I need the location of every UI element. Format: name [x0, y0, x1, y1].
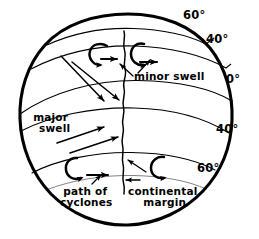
latitude-line-60n [47, 28, 206, 45]
continental-margin-label: continental margin [128, 186, 198, 208]
path-of-cyclones-label: path of cyclones [58, 186, 113, 208]
latitude-label-40s: 40° [216, 122, 238, 136]
ocean-swell-globe-figure: 60° 40° 0° 40° 60° minor swell major swe… [0, 0, 259, 239]
latitude-label-60n: 60° [183, 8, 205, 22]
swell-arrow-upper-b [72, 62, 119, 100]
major-swell-label-line2: swell [31, 123, 70, 134]
minor-swell-label: minor swell [134, 71, 205, 82]
continental-margin-line [122, 31, 126, 194]
path-of-cyclones-label-line2: cyclones [58, 197, 113, 208]
cyclone-path-pointer [92, 175, 101, 184]
latitude-label-0: 0° [226, 72, 240, 86]
cyclone-spirals-north [90, 44, 144, 66]
latitude-line-40n [31, 46, 226, 69]
major-swell-arrows-upper [61, 56, 119, 101]
swell-arrow-upper-a [61, 56, 104, 101]
margin-pointer-upper [128, 160, 146, 172]
major-swell-label: major swell [31, 112, 70, 134]
swell-arrow-lower-b [70, 137, 118, 153]
tick-leader-40n [226, 64, 231, 68]
cyclone-spiral-south-right [151, 157, 164, 178]
cyclone-spiral-south-left [66, 158, 81, 179]
latitude-label-60s: 60° [197, 161, 219, 175]
continental-margin-label-line2: margin [128, 197, 198, 208]
latitude-line-0 [20, 80, 232, 114]
latitude-label-40n: 40° [206, 32, 228, 46]
path-of-cyclones-pointers [92, 175, 101, 184]
continental-margin-pointers [126, 160, 146, 180]
minor-swell-pointer-left [120, 64, 133, 76]
